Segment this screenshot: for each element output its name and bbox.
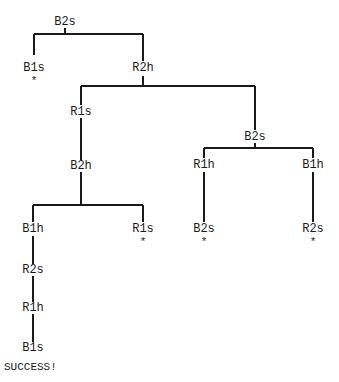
node-r1h-chain: R1h [21,302,45,314]
terminal-marker: * [31,76,38,87]
node-r2s: R2s [21,264,45,276]
search-tree-diagram: B2s B1s * R2h R1s B2s B2h R1h B1h B1h R1… [0,0,339,382]
terminal-marker: * [140,237,147,248]
node-b2s-leaf: B2s [192,223,216,235]
status-text: SUCCESS! [4,361,57,373]
node-b1s-final: B1s [21,342,45,354]
node-b1h-left: B1h [21,223,45,235]
node-b2s: B2s [243,131,267,143]
node-r2h: R2h [131,62,155,74]
node-b2h: B2h [69,160,93,172]
node-b1s: B1s [22,62,46,74]
node-r1s: R1s [69,106,93,118]
terminal-marker: * [310,237,317,248]
terminal-marker: * [201,237,208,248]
node-b1h: B1h [301,159,325,171]
node-root: B2s [53,16,77,28]
node-r1s-leaf: R1s [131,223,155,235]
node-r2s-leaf: R2s [301,223,325,235]
tree-edges [0,0,339,382]
node-r1h: R1h [192,159,216,171]
